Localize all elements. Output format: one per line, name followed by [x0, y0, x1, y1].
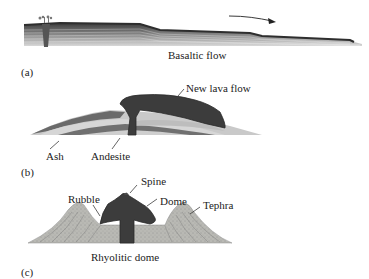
panel-label-a: (a) [21, 66, 33, 78]
volcano-diagram [0, 0, 369, 279]
basaltic-flow-illustration [24, 16, 362, 47]
tephra-label: Tephra [203, 199, 233, 211]
rhyolitic-dome-illustration [28, 193, 232, 244]
new-lava-flow-label: New lava flow [186, 82, 251, 94]
rhyolitic-dome-caption: Rhyolitic dome [91, 251, 159, 263]
basaltic-flow-caption: Basaltic flow [168, 49, 226, 61]
rubble-label: Rubble [68, 193, 100, 205]
spine-label: Spine [141, 175, 166, 187]
vent-plume-icon [39, 16, 53, 23]
andesite-label: Andesite [91, 150, 130, 162]
flow-direction-arrow-icon [229, 16, 276, 24]
andesitic-flow-illustration [30, 95, 262, 135]
ash-label: Ash [46, 150, 64, 162]
panel-label-b: (b) [21, 166, 34, 178]
panel-label-c: (c) [21, 266, 33, 278]
dome-label: Dome [160, 195, 187, 207]
